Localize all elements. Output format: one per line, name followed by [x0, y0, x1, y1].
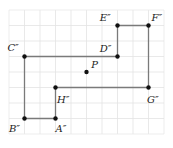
vertex-e-dot [115, 23, 119, 27]
vertex-h-dot [53, 85, 57, 89]
vertex-c-label: C″ [7, 42, 19, 53]
vertex-g-dot [146, 85, 150, 89]
center-p-label: P [90, 59, 98, 70]
vertex-b-dot [22, 116, 26, 120]
vertex-d-dot [115, 54, 119, 58]
center-p-dot [84, 70, 88, 74]
vertex-b-label: B″ [8, 123, 20, 134]
vertex-a-label: A″ [55, 123, 67, 134]
vertex-a-dot [53, 116, 57, 120]
vertex-d-label: D″ [99, 43, 112, 54]
vertex-h-label: H″ [56, 94, 70, 105]
vertex-e-label: E″ [99, 12, 111, 23]
vertex-f-label: F″ [151, 12, 163, 23]
vertex-f-dot [146, 23, 150, 27]
vertex-g-label: G″ [147, 94, 159, 105]
figure-canvas: A″B″C″D″E″F″G″H″ P [0, 0, 173, 148]
vertex-c-dot [22, 54, 26, 58]
